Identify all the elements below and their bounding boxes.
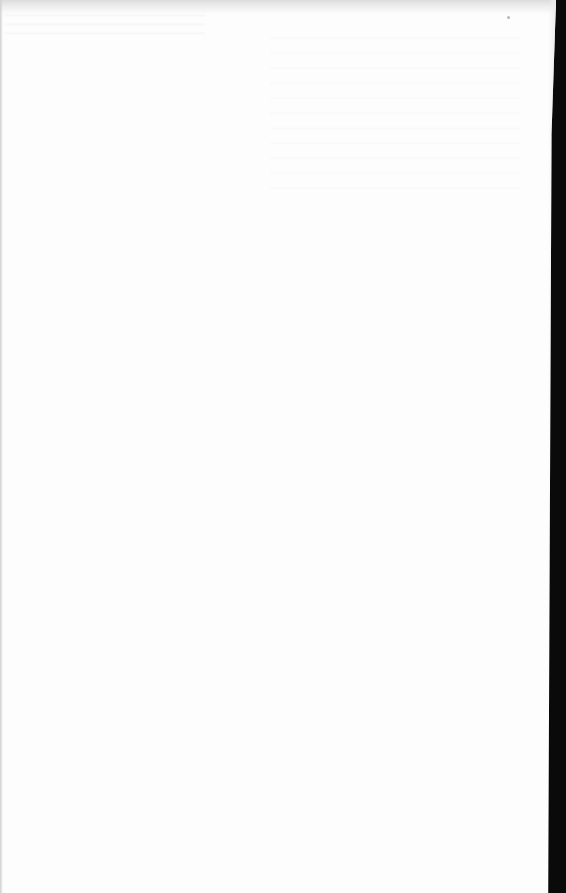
show-through-marks-top-left	[5, 8, 205, 38]
page-left-edge	[0, 0, 3, 893]
show-through-marks-upper-right	[270, 25, 520, 195]
blank-page	[0, 0, 556, 893]
dust-speck	[507, 16, 510, 19]
scanned-document	[0, 0, 566, 893]
page-right-edge	[548, 0, 556, 893]
